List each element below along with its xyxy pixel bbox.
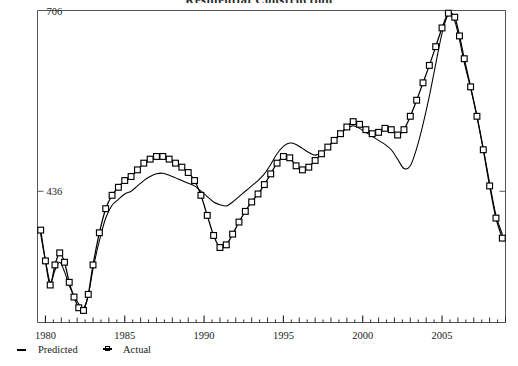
chart-figure: Residential Construction 198019851990199…	[0, 0, 518, 366]
x-axis-ticks	[45, 316, 505, 323]
x-tick-label: 1985	[114, 330, 135, 341]
chart-legend: Predicted Actual	[0, 342, 518, 364]
x-tick-label: 2000	[352, 330, 373, 341]
x-axis-tick-labels: 198019851990199520002005	[35, 330, 453, 341]
legend-label-actual: Actual	[123, 344, 151, 355]
dash-marker-icon	[16, 344, 29, 355]
x-tick-label: 1990	[194, 330, 215, 341]
x-tick-label: 2005	[432, 330, 453, 341]
x-tick-label: 1980	[35, 330, 56, 341]
y-tick-label: 436	[47, 186, 63, 197]
plot-area: 198019851990199520002005 436706	[0, 0, 518, 342]
series-actual	[38, 10, 505, 313]
plot-border	[38, 11, 506, 323]
square-marker-icon	[101, 344, 114, 355]
x-tick-label: 1995	[273, 330, 294, 341]
axes-frame	[38, 11, 506, 323]
y-axis-tick-labels: 436706	[47, 6, 63, 197]
legend-item-predicted: Predicted	[16, 344, 78, 355]
y-tick-label: 706	[47, 6, 63, 17]
series-predicted	[41, 14, 503, 308]
legend-label-predicted: Predicted	[38, 344, 78, 355]
legend-item-actual: Actual	[101, 344, 151, 355]
